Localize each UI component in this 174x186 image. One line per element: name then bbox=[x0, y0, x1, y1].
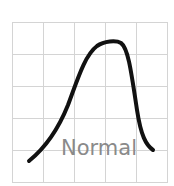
normal-curve-diagram: Normal bbox=[0, 0, 174, 186]
curve-label: Normal bbox=[61, 136, 137, 160]
